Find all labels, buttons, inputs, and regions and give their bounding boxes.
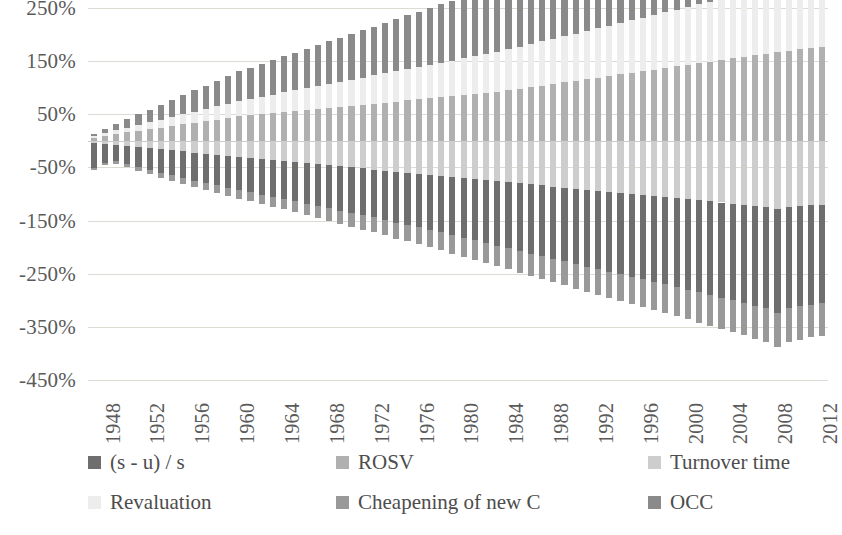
- x-axis-tick-label: 1964: [281, 403, 304, 444]
- gridline--50: [88, 167, 828, 168]
- x-axis-tick-label: 1976: [416, 403, 439, 444]
- bar-segment-revaluation: [606, 26, 612, 76]
- x-axis-tick-label: 1972: [371, 403, 394, 444]
- bar-segment-s_minus_u_over_s: [662, 197, 668, 284]
- bar-1994: [606, 8, 612, 380]
- bar-segment-revaluation: [214, 106, 220, 119]
- bar-1970: [337, 8, 343, 380]
- x-axis-tick-label: 1988: [550, 403, 573, 444]
- x-axis-tick-label: 1968: [326, 403, 349, 444]
- bar-segment-s_minus_u_over_s: [135, 147, 141, 167]
- bar-segment-occ: [561, 0, 567, 36]
- bar-segment-s_minus_u_over_s: [371, 170, 377, 218]
- bar-segment-revaluation: [158, 120, 164, 128]
- bar-segment-rosv: [707, 62, 713, 141]
- bar-segment-revaluation: [259, 97, 265, 115]
- bar-1976: [404, 8, 410, 380]
- legend-item-turnover-time[interactable]: Turnover time: [648, 452, 790, 473]
- bar-segment-cheapening_of_new_c: [640, 279, 646, 307]
- bar-segment-s_minus_u_over_s: [281, 161, 287, 199]
- bar-segment-rosv: [315, 109, 321, 141]
- legend-item-occ[interactable]: OCC: [648, 492, 713, 513]
- bar-segment-rosv: [292, 111, 298, 141]
- bar-segment-turnover_time: [617, 141, 623, 193]
- bar-segment-occ: [315, 45, 321, 86]
- bar-segment-cheapening_of_new_c: [561, 261, 567, 285]
- y-axis-tick-label: 50%: [0, 102, 76, 127]
- bar-segment-occ: [348, 34, 354, 80]
- bar-segment-revaluation: [528, 44, 534, 87]
- bar-segment-occ: [225, 76, 231, 104]
- bar-segment-turnover_time: [696, 141, 702, 201]
- bar-segment-s_minus_u_over_s: [91, 143, 97, 169]
- bar-segment-s_minus_u_over_s: [685, 199, 691, 289]
- bar-segment-occ: [449, 1, 455, 61]
- bar-segment-s_minus_u_over_s: [819, 205, 825, 304]
- bar-segment-rosv: [730, 58, 736, 140]
- bar-segment-cheapening_of_new_c: [461, 238, 467, 257]
- bar-segment-rosv: [449, 96, 455, 141]
- bar-segment-cheapening_of_new_c: [517, 251, 523, 273]
- bar-segment-turnover_time: [158, 141, 164, 150]
- bar-segment-revaluation: [573, 34, 579, 81]
- bar-segment-revaluation: [617, 23, 623, 75]
- bar-segment-rosv: [595, 78, 601, 141]
- bar-segment-rosv: [360, 105, 366, 141]
- bar-segment-cheapening_of_new_c: [404, 225, 410, 241]
- bar-segment-turnover_time: [393, 141, 399, 172]
- bar-1997: [640, 8, 646, 380]
- legend-item-rosv[interactable]: ROSV: [336, 452, 414, 473]
- bar-segment-cheapening_of_new_c: [236, 190, 242, 199]
- bar-segment-revaluation: [797, 0, 803, 49]
- bar-segment-turnover_time: [707, 141, 713, 202]
- y-axis-tick-label: -250%: [0, 261, 76, 286]
- legend-item-cheapening-of-new-c[interactable]: Cheapening of new C: [336, 492, 541, 513]
- bar-segment-occ: [326, 41, 332, 84]
- bar-segment-s_minus_u_over_s: [763, 207, 769, 309]
- bar-segment-turnover_time: [528, 141, 534, 185]
- chart-legend: (s - u) / sROSVTurnover timeRevaluationC…: [88, 452, 823, 530]
- bar-segment-cheapening_of_new_c: [247, 192, 253, 201]
- bar-segment-turnover_time: [360, 141, 366, 169]
- bar-segment-revaluation: [270, 95, 276, 114]
- bar-segment-cheapening_of_new_c: [203, 183, 209, 190]
- legend-label: ROSV: [358, 452, 414, 473]
- bar-segment-rosv: [763, 54, 769, 141]
- bar-segment-s_minus_u_over_s: [382, 171, 388, 220]
- bar-2010: [786, 8, 792, 380]
- bar-2013: [819, 8, 825, 380]
- bar-segment-rosv: [326, 108, 332, 141]
- bar-segment-s_minus_u_over_s: [337, 166, 343, 211]
- bar-segment-turnover_time: [292, 141, 298, 162]
- bar-segment-cheapening_of_new_c: [550, 259, 556, 282]
- bar-segment-cheapening_of_new_c: [259, 195, 265, 205]
- bar-segment-occ: [102, 129, 108, 133]
- bar-1975: [393, 8, 399, 380]
- bar-segment-rosv: [528, 87, 534, 141]
- bar-segment-revaluation: [472, 56, 478, 94]
- legend-swatch-icon: [336, 456, 349, 469]
- bar-segment-s_minus_u_over_s: [292, 162, 298, 201]
- bar-segment-revaluation: [337, 82, 343, 107]
- legend-label: OCC: [670, 492, 713, 513]
- bar-segment-turnover_time: [629, 141, 635, 194]
- bar-segment-revaluation: [461, 58, 467, 95]
- bar-segment-turnover_time: [371, 141, 377, 170]
- gridline-250: [88, 8, 828, 9]
- bar-segment-rosv: [113, 134, 119, 141]
- bar-1978: [427, 8, 433, 380]
- bar-segment-s_minus_u_over_s: [113, 145, 119, 161]
- legend-item-revaluation[interactable]: Revaluation: [88, 492, 211, 513]
- bar-segment-rosv: [147, 129, 153, 141]
- bar-segment-s_minus_u_over_s: [326, 165, 332, 208]
- bar-segment-turnover_time: [203, 141, 209, 154]
- bar-segment-s_minus_u_over_s: [595, 191, 601, 270]
- y-axis-tick-label: -150%: [0, 208, 76, 233]
- bar-segment-rosv: [438, 97, 444, 141]
- bar-segment-cheapening_of_new_c: [629, 277, 635, 304]
- bar-segment-revaluation: [696, 4, 702, 63]
- legend-item-s-minus-u-over-s[interactable]: (s - u) / s: [88, 452, 185, 473]
- bar-segment-s_minus_u_over_s: [617, 193, 623, 274]
- bar-segment-revaluation: [774, 0, 780, 52]
- bar-segment-rosv: [651, 70, 657, 141]
